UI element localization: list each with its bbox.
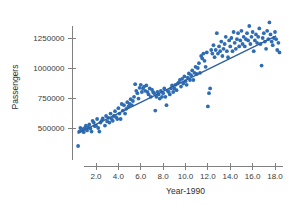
data-point [270, 40, 274, 44]
data-point [96, 126, 100, 130]
data-point [235, 37, 239, 41]
x-axis-title: Year-1990 [166, 186, 205, 196]
data-point [248, 42, 252, 46]
data-point [233, 41, 237, 45]
data-point [252, 49, 256, 53]
y-tick-label: 750000 [38, 94, 65, 103]
data-point [256, 35, 260, 39]
data-point [261, 36, 265, 40]
data-point [212, 43, 216, 47]
data-point [210, 52, 214, 56]
x-tick-label: 18.0 [267, 172, 283, 181]
data-point [276, 41, 280, 45]
data-point [182, 75, 186, 79]
y-axis: 50000075000010000001250000 [33, 26, 76, 160]
data-point [163, 95, 167, 99]
x-tick-label: 16.0 [245, 172, 261, 181]
data-point [265, 29, 269, 33]
data-point [217, 45, 221, 49]
data-point [250, 35, 254, 39]
data-point [247, 24, 251, 28]
x-tick-label: 14.0 [222, 172, 238, 181]
x-tick-label: 4.0 [113, 172, 125, 181]
data-point [207, 91, 211, 95]
data-point [222, 47, 226, 51]
data-point [264, 47, 268, 51]
data-point [95, 117, 99, 121]
data-point [215, 31, 219, 35]
data-point [204, 65, 208, 69]
data-point [225, 49, 229, 53]
data-point [168, 93, 172, 97]
data-point [229, 36, 233, 40]
data-point [115, 117, 119, 121]
data-point [257, 27, 261, 31]
data-point [109, 112, 113, 116]
data-point [191, 78, 195, 82]
data-point [234, 47, 238, 51]
data-point [185, 83, 189, 87]
data-point [223, 42, 227, 46]
data-point [132, 95, 136, 99]
data-point [140, 90, 144, 94]
data-point [243, 45, 247, 49]
data-point [246, 39, 250, 43]
data-point [209, 48, 213, 52]
data-point [269, 33, 273, 37]
data-point [273, 30, 277, 34]
data-point [92, 121, 96, 125]
data-point [206, 105, 210, 109]
data-point [179, 85, 183, 89]
data-point [160, 95, 164, 99]
data-point [76, 144, 80, 148]
data-point [245, 31, 249, 35]
data-point [153, 109, 157, 113]
data-point [271, 43, 275, 47]
data-point [133, 82, 137, 86]
x-tick-label: 6.0 [135, 172, 147, 181]
data-point [131, 99, 135, 103]
data-point [90, 130, 94, 134]
data-point [224, 35, 228, 39]
data-point [108, 121, 112, 125]
data-point [228, 45, 232, 49]
data-point [196, 66, 200, 70]
data-point [260, 64, 264, 68]
x-axis: 2.04.06.08.010.012.014.016.018.0 [84, 163, 283, 181]
data-point [202, 52, 206, 56]
data-point [97, 130, 101, 134]
data-point [139, 83, 143, 87]
data-point [144, 84, 148, 88]
data-point [231, 49, 235, 53]
data-point [137, 97, 141, 101]
data-point [197, 61, 201, 65]
y-tick-label: 1250000 [33, 34, 65, 43]
data-point [221, 54, 225, 58]
data-point [135, 91, 139, 95]
data-point [262, 31, 266, 35]
data-point [111, 119, 115, 123]
y-tick-label: 500000 [38, 124, 65, 133]
data-point [236, 31, 240, 35]
data-point [278, 51, 282, 55]
x-tick-label: 8.0 [158, 172, 170, 181]
data-point [219, 40, 223, 44]
data-point [165, 103, 169, 107]
x-tick-label: 12.0 [200, 172, 216, 181]
data-point [274, 37, 278, 41]
data-point [123, 112, 127, 116]
data-point [103, 124, 107, 128]
regression-line [78, 36, 277, 134]
chart-canvas: 50000075000010000001250000 2.04.06.08.01… [0, 0, 290, 206]
data-point [205, 51, 209, 55]
data-point [237, 45, 241, 49]
data-point [251, 30, 255, 34]
data-point [119, 117, 123, 121]
data-point [240, 29, 244, 33]
trend-line-layer [78, 36, 277, 134]
data-point [171, 90, 175, 94]
data-point [238, 39, 242, 43]
data-point [268, 21, 272, 25]
data-point [208, 87, 212, 91]
y-axis-title: Passengers [10, 65, 20, 110]
